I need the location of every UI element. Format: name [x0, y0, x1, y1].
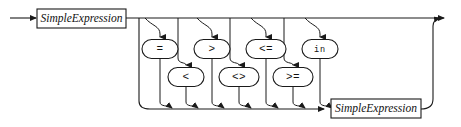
terminal-op-not-equal[interactable]: <> — [219, 68, 259, 87]
terminal-op-greater[interactable]: > — [194, 40, 230, 59]
terminal-label: <= — [259, 43, 273, 55]
return-rail-right — [421, 18, 440, 109]
railroad-diagram: SimpleExpression — [0, 0, 461, 127]
nonterminal-simple-expression-left: SimpleExpression — [37, 9, 126, 28]
bottom-rail — [139, 18, 324, 109]
nonterminal-simple-expression-right: SimpleExpression — [331, 99, 421, 118]
merge-from-op-less — [186, 87, 198, 109]
branch-to-op-in — [305, 18, 320, 37]
branch-to-op-not-equal — [230, 18, 239, 65]
terminal-label: = — [156, 43, 163, 55]
terminal-op-greater-equal[interactable]: >= — [273, 68, 313, 87]
merge-from-op-greater-equal — [293, 87, 305, 109]
branch-to-op-equal — [145, 18, 160, 37]
branch-to-op-less — [178, 18, 186, 65]
terminal-label: > — [208, 43, 215, 55]
nonterminal-label: SimpleExpression — [41, 12, 123, 25]
nonterminal-label: SimpleExpression — [335, 102, 417, 115]
branch-to-op-less-equal — [251, 18, 266, 37]
terminal-op-equal[interactable]: = — [142, 40, 178, 59]
terminal-op-less-equal[interactable]: <= — [246, 40, 286, 59]
railroad-diagram-canvas: SimpleExpression — [0, 0, 461, 127]
terminal-op-less[interactable]: < — [168, 68, 204, 87]
branch-to-op-greater — [197, 18, 212, 37]
terminal-label: < — [182, 71, 189, 83]
merge-from-op-in — [320, 59, 332, 109]
branch-to-op-greater-equal — [284, 18, 293, 65]
merge-from-op-not-equal — [239, 87, 251, 109]
terminal-label: <> — [232, 71, 246, 83]
terminal-op-in[interactable]: in — [302, 40, 338, 59]
terminal-label: >= — [286, 71, 300, 83]
terminal-label: in — [314, 45, 326, 55]
